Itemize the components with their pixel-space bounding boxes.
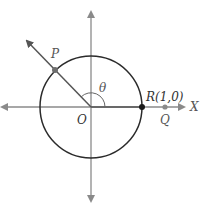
- label-p: P: [50, 47, 60, 61]
- point-p: [52, 67, 58, 73]
- label-x-axis: X: [189, 100, 199, 114]
- label-theta: θ: [99, 81, 107, 95]
- label-o: O: [77, 113, 87, 127]
- unit-circle-diagram: P θ R(1,0) X O Q: [0, 0, 203, 204]
- point-q: [162, 104, 167, 109]
- label-r: R(1,0): [145, 90, 184, 104]
- diagram-svg: P θ R(1,0) X O Q: [0, 0, 203, 204]
- point-r: [139, 104, 145, 110]
- label-q: Q: [160, 113, 170, 127]
